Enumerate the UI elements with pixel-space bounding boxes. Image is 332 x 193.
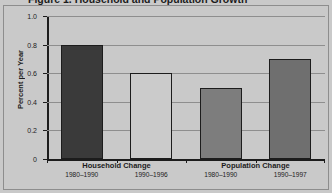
y-axis-tick: 0.4 [43, 102, 47, 103]
y-axis-tick-label: 0.8 [27, 41, 37, 48]
y-axis-tick-label: 0 [33, 156, 37, 163]
x-axis-period-label: 1980–1990 [204, 171, 237, 178]
x-axis-period-label: 1990–1997 [274, 171, 307, 178]
bar [269, 59, 311, 159]
y-axis-tick: 0.2 [43, 130, 47, 131]
y-axis-tick-label: 0.4 [27, 98, 37, 105]
plot-area: 00.20.40.60.81.0 [47, 16, 325, 159]
chart-figure: Figure 1. Household and Population Growt… [0, 0, 332, 193]
x-axis-group-label: Population Change [221, 161, 289, 170]
bar [130, 73, 172, 159]
x-axis-tick [47, 159, 48, 163]
x-axis-tick [186, 159, 187, 163]
y-axis-label: Percent per Year [16, 50, 26, 109]
x-axis-period-label: 1980–1990 [65, 171, 98, 178]
bar [61, 45, 103, 159]
y-axis-tick: 0.8 [43, 45, 47, 46]
gridline [47, 16, 325, 17]
y-axis-line [47, 16, 49, 160]
y-axis-tick-label: 0.6 [27, 70, 37, 77]
y-axis-tick-label: 1.0 [27, 13, 37, 20]
y-axis-tick: 0.6 [43, 73, 47, 74]
x-axis-tick [324, 159, 325, 163]
x-axis-period-label: 1990–1996 [135, 171, 168, 178]
y-axis-tick: 1.0 [43, 16, 47, 17]
y-axis-tick-label: 0.2 [27, 127, 37, 134]
x-axis-group-label: Household Change [82, 161, 150, 170]
bar [200, 88, 242, 160]
